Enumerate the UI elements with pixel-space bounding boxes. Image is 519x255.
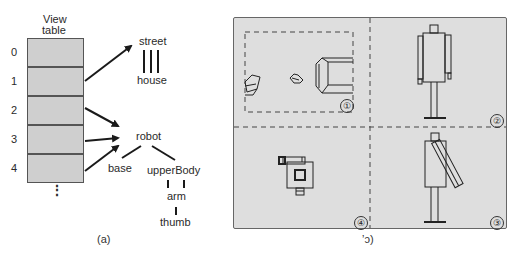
quadrant-label-1: ① xyxy=(340,99,354,113)
quadrant-3-robot-side xyxy=(424,133,463,222)
quadrant-4-robot-top xyxy=(279,157,313,195)
quadrant-label-4: ④ xyxy=(354,216,368,230)
quadrant-label-3: ③ xyxy=(490,216,504,230)
quadrant-2-robot-front xyxy=(418,25,451,118)
quadrant-1-street-scene xyxy=(245,32,353,112)
quadrant-label-2: ② xyxy=(490,114,504,128)
caption-b: ʼɔ) xyxy=(362,233,374,245)
panel-b-drawing xyxy=(0,0,519,255)
